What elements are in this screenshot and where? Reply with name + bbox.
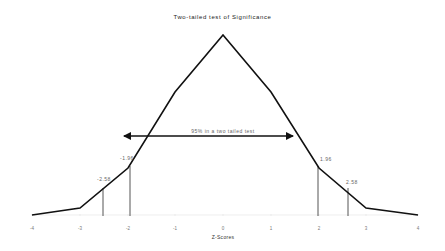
x-tick-labels: -4 -3 -2 -1 0 1 2 3 4 — [30, 226, 420, 231]
arrow-label: 95% in a two tailed test — [191, 128, 255, 134]
svg-text:0: 0 — [222, 226, 225, 231]
distribution-curve — [32, 35, 418, 215]
label-neg-2-58: -2.58 — [97, 176, 111, 182]
svg-text:-3: -3 — [78, 226, 82, 231]
x-axis-label: Z-Scores — [212, 234, 235, 240]
svg-text:3: 3 — [365, 226, 368, 231]
svg-text:4: 4 — [417, 226, 420, 231]
svg-text:-4: -4 — [30, 226, 34, 231]
svg-text:1: 1 — [270, 226, 273, 231]
label-pos-1-96: 1.96 — [320, 156, 332, 162]
distribution-chart: 95% in a two tailed test -1.96 -2.58 1.9… — [0, 0, 445, 251]
label-pos-2-58: 2.58 — [346, 179, 358, 185]
svg-text:2: 2 — [318, 226, 321, 231]
svg-text:-2: -2 — [126, 226, 130, 231]
svg-text:-1: -1 — [173, 226, 177, 231]
label-neg-1-96: -1.96 — [120, 155, 134, 161]
